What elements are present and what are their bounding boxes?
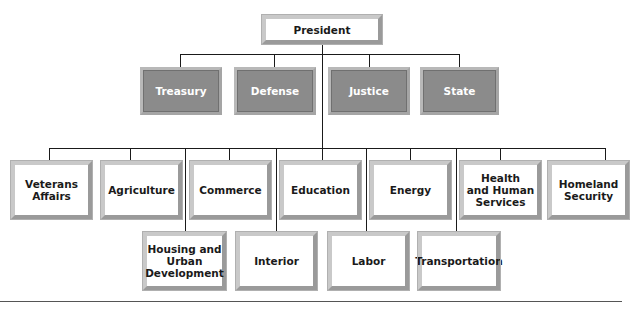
node-interior: Interior bbox=[236, 232, 317, 290]
node-commerce: Commerce bbox=[190, 161, 271, 219]
connector-dept-bar bbox=[49, 148, 606, 149]
connector-state bbox=[459, 54, 460, 67]
connector-core-bar bbox=[180, 54, 460, 55]
node-health-human-services: Health and Human Services bbox=[460, 161, 541, 219]
node-label: Commerce bbox=[199, 184, 261, 196]
node-justice: Justice bbox=[328, 67, 410, 115]
node-housing-urban-development: Housing and Urban Development bbox=[143, 232, 226, 290]
node-veterans-affairs: Veterans Affairs bbox=[11, 161, 92, 219]
node-label: Education bbox=[291, 184, 350, 196]
node-label: Health and Human Services bbox=[467, 172, 535, 208]
node-homeland-security: Homeland Security bbox=[548, 161, 629, 219]
connector-homeland bbox=[605, 148, 606, 161]
connector-defense bbox=[274, 54, 275, 67]
node-label: Treasury bbox=[155, 85, 206, 97]
node-label: Energy bbox=[390, 184, 431, 196]
node-label: Interior bbox=[254, 255, 299, 267]
node-agriculture: Agriculture bbox=[101, 161, 182, 219]
connector-commerce bbox=[229, 148, 230, 161]
node-label: Defense bbox=[251, 85, 299, 97]
connector-education bbox=[322, 148, 323, 161]
node-labor: Labor bbox=[328, 232, 409, 290]
connector-veterans bbox=[49, 148, 50, 161]
node-label: Agriculture bbox=[108, 184, 175, 196]
node-treasury: Treasury bbox=[140, 67, 222, 115]
node-label: Veterans Affairs bbox=[25, 178, 78, 202]
connector-energy bbox=[410, 148, 411, 161]
node-energy: Energy bbox=[370, 161, 451, 219]
connector-housing bbox=[185, 148, 186, 232]
connector-treasury bbox=[180, 54, 181, 67]
node-president: President bbox=[262, 15, 382, 44]
connector-justice bbox=[369, 54, 370, 67]
node-label: Justice bbox=[349, 85, 389, 97]
node-label: State bbox=[444, 85, 476, 97]
node-label: President bbox=[294, 24, 351, 36]
connector-interior bbox=[276, 148, 277, 232]
connector-labor bbox=[366, 148, 367, 232]
connector-president-down bbox=[322, 44, 323, 54]
connector-transportation bbox=[456, 148, 457, 232]
node-label: Labor bbox=[352, 255, 386, 267]
connector-hhs bbox=[500, 148, 501, 161]
node-defense: Defense bbox=[234, 67, 316, 115]
connector-trunk bbox=[322, 54, 323, 148]
node-transportation: Transportation bbox=[418, 232, 500, 290]
node-state: State bbox=[420, 67, 499, 115]
node-education: Education bbox=[280, 161, 361, 219]
node-label: Housing and Urban Development bbox=[145, 243, 224, 279]
connector-agriculture bbox=[130, 148, 131, 161]
node-label: Homeland Security bbox=[559, 178, 619, 202]
bottom-divider bbox=[0, 301, 622, 302]
node-label: Transportation bbox=[415, 255, 502, 267]
